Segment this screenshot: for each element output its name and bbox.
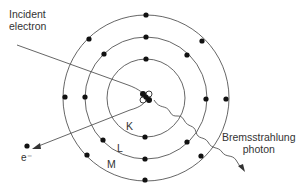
incident-electron-label: Incident electron (9, 8, 46, 32)
photon-label-line2: photon (222, 143, 296, 155)
electron-out-label: e⁻ (21, 152, 32, 164)
bremsstrahlung-photon-label: Bremsstrahlung photon (222, 131, 296, 155)
nucleus-icon (140, 91, 152, 103)
photon-label-line1: Bremsstrahlung (222, 131, 296, 143)
incident-label-line1: Incident (9, 8, 46, 20)
shell-label-l: L (117, 142, 123, 154)
incident-label-line2: electron (9, 20, 46, 32)
shell-label-k: K (126, 120, 133, 132)
electron-arrowhead (32, 143, 41, 149)
ejected-electron-dot (24, 143, 29, 148)
shell-label-m: M (107, 158, 116, 170)
